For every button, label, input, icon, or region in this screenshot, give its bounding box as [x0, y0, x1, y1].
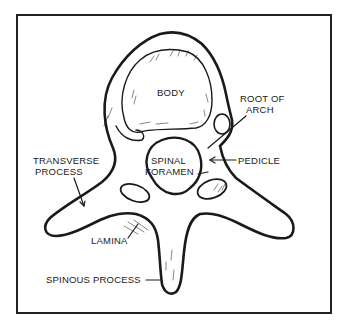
left-facet	[118, 180, 152, 205]
label-root-of-arch-line1: ROOT OF	[240, 93, 285, 104]
transverse-process-leader	[74, 178, 84, 206]
label-transverse-process-line1: TRANSVERSE	[33, 155, 99, 166]
label-spinal-foramen-line2: FORAMEN	[145, 166, 194, 177]
label-transverse-process-line2: PROCESS	[35, 166, 83, 177]
lamina-leader	[128, 224, 138, 238]
label-pedicle: PEDICLE	[238, 155, 280, 166]
label-root-of-arch-line2: ARCH	[246, 104, 274, 115]
label-spinal-foramen-line1: SPINAL	[151, 155, 186, 166]
label-spinous-process: SPINOUS PROCESS	[46, 274, 141, 285]
right-facet	[195, 175, 229, 202]
label-body: BODY	[157, 87, 185, 98]
label-lamina: LAMINA	[91, 235, 128, 246]
